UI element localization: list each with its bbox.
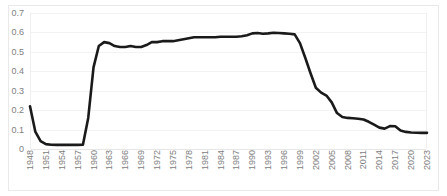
x-axis-tick-label: 1963 xyxy=(104,150,114,170)
x-axis-tick-label: 1948 xyxy=(25,150,35,170)
x-axis-tick-label: 2023 xyxy=(422,150,432,170)
x-axis-tick-label: 1996 xyxy=(279,150,289,170)
x-axis-tick-label: 1954 xyxy=(57,150,67,170)
x-axis-tick-label: 1972 xyxy=(152,150,162,170)
x-axis-tick-label: 2017 xyxy=(390,150,400,170)
y-axis-tick-label: 0.7 xyxy=(11,8,24,18)
x-axis-tick-label: 2011 xyxy=(358,150,368,169)
chart-container: 0.70.60.50.40.30.20.10 19481951195419571… xyxy=(0,0,447,196)
y-axis-tick-label: 0 xyxy=(19,144,24,154)
x-axis-tick-label: 2014 xyxy=(374,150,384,170)
line-series-path xyxy=(30,33,427,145)
x-axis-tick-label: 2002 xyxy=(311,150,321,170)
y-axis-tick-label: 0.4 xyxy=(11,66,24,76)
y-axis-tick-label: 0.5 xyxy=(11,47,24,57)
x-axis-tick-label: 1951 xyxy=(41,150,51,170)
x-axis-tick-label: 1978 xyxy=(184,150,194,170)
x-axis-tick-label: 1990 xyxy=(247,150,257,170)
x-axis-tick-label: 2020 xyxy=(406,150,416,170)
x-axis-tick-label: 1987 xyxy=(231,150,241,170)
y-axis-tick-label: 0.1 xyxy=(11,125,24,135)
x-axis-tick-label: 1975 xyxy=(168,150,178,170)
x-axis-tick-label: 1966 xyxy=(120,150,130,170)
y-axis-tick-label: 0.3 xyxy=(11,86,24,96)
x-axis: 1948195119541957196019631966196919721975… xyxy=(30,150,427,194)
y-axis-tick-label: 0.2 xyxy=(11,105,24,115)
x-axis-tick-label: 2005 xyxy=(327,150,337,170)
x-axis-tick-label: 1969 xyxy=(136,150,146,170)
y-axis: 0.70.60.50.40.30.20.10 xyxy=(0,13,27,149)
x-axis-tick-label: 1999 xyxy=(295,150,305,170)
x-axis-tick-label: 1981 xyxy=(200,150,210,170)
x-axis-tick-label: 1984 xyxy=(216,150,226,170)
x-axis-tick-label: 1957 xyxy=(73,150,83,170)
y-axis-tick-label: 0.6 xyxy=(11,27,24,37)
x-axis-tick-label: 1993 xyxy=(263,150,273,170)
x-axis-tick-label: 1960 xyxy=(89,150,99,170)
line-series-svg xyxy=(30,13,427,149)
x-axis-tick-label: 2008 xyxy=(343,150,353,170)
